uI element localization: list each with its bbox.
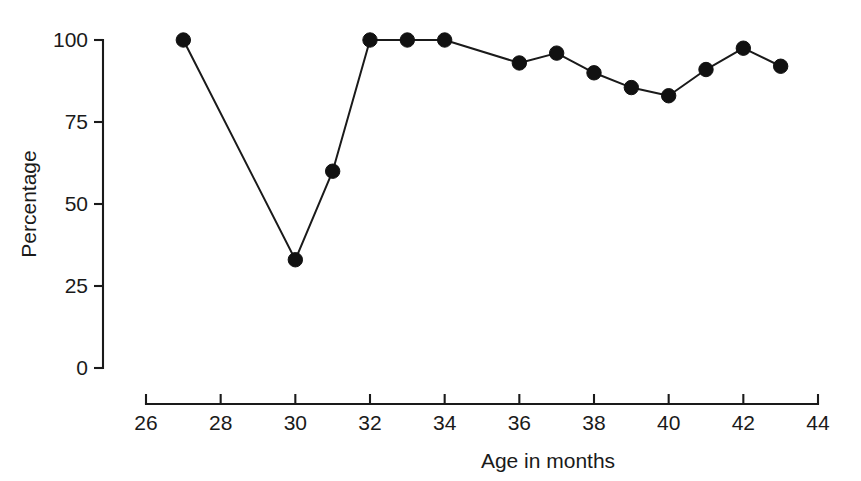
x-axis-title: Age in months [481,449,615,472]
y-axis-title: Percentage [17,150,40,257]
x-tick-label-30: 30 [284,411,307,434]
data-point [587,66,601,80]
data-series [176,33,788,267]
data-point [288,253,302,267]
data-point [325,164,339,178]
y-axis: 0255075100 [53,28,103,379]
x-tick-label-42: 42 [732,411,755,434]
x-tick-label-40: 40 [657,411,680,434]
chart-figure: 0255075100 26283032343638404244 Percenta… [0,0,861,481]
data-point [512,56,526,70]
data-point [736,41,750,55]
data-point [400,33,414,47]
y-tick-label-75: 75 [65,110,88,133]
x-tick-label-38: 38 [582,411,605,434]
x-tick-label-36: 36 [508,411,531,434]
data-point [437,33,451,47]
y-tick-label-0: 0 [76,356,88,379]
x-tick-label-34: 34 [433,411,457,434]
y-tick-label-50: 50 [65,192,88,215]
data-point [699,62,713,76]
x-tick-label-26: 26 [134,411,157,434]
x-tick-label-44: 44 [806,411,830,434]
data-point [549,46,563,60]
x-tick-label-32: 32 [358,411,381,434]
data-point [773,59,787,73]
y-tick-label-100: 100 [53,28,88,51]
data-point [363,33,377,47]
chart-canvas: 0255075100 26283032343638404244 Percenta… [0,0,861,481]
x-tick-label-28: 28 [209,411,232,434]
y-tick-label-25: 25 [65,274,88,297]
data-point [661,89,675,103]
x-axis: 26283032343638404244 [134,394,830,434]
series-polyline [183,40,780,260]
data-point [176,33,190,47]
data-point [624,80,638,94]
